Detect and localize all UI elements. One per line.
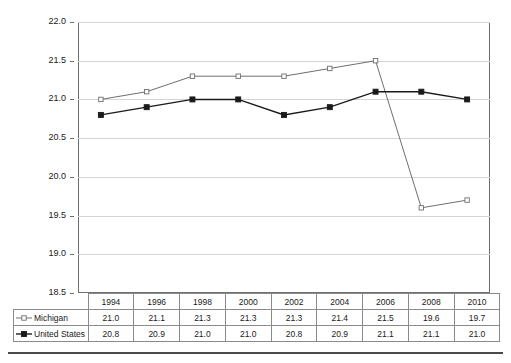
table-cell: 21.0 <box>180 326 226 342</box>
y-axis-tick-mark <box>70 216 74 217</box>
table-cell: 21.3 <box>225 310 271 326</box>
table-corner-cell <box>14 294 89 310</box>
table-cell: 21.1 <box>408 326 454 342</box>
column-header: 2002 <box>271 294 317 310</box>
column-header: 2008 <box>408 294 454 310</box>
legend-label: United States <box>34 329 88 339</box>
table-cell: 21.0 <box>225 326 271 342</box>
data-point-marker <box>419 206 423 210</box>
y-axis-tick-mark <box>70 177 74 178</box>
table-cell: 20.8 <box>88 326 134 342</box>
data-point-marker <box>144 89 148 93</box>
column-header: 2004 <box>317 294 363 310</box>
y-axis-tick-label: 20.5 <box>48 133 66 142</box>
table-cell: 20.9 <box>134 326 180 342</box>
data-point-marker <box>99 97 103 101</box>
y-axis-tick-label: 22.0 <box>48 17 66 26</box>
data-point-marker <box>465 97 470 102</box>
y-axis-tick-label: 19.5 <box>48 211 66 220</box>
plot-area <box>78 22 490 293</box>
column-header: 2000 <box>225 294 271 310</box>
data-table: 199419961998200020022004200620082010Mich… <box>13 293 500 342</box>
data-point-marker <box>144 105 149 110</box>
filled-square-marker-icon <box>16 329 32 339</box>
table-cell: 19.7 <box>454 310 500 326</box>
y-axis-tick-label: 21.0 <box>48 94 66 103</box>
table-cell: 21.1 <box>363 326 409 342</box>
table-row: Michigan21.021.121.321.321.321.421.519.6… <box>14 310 500 326</box>
data-point-marker <box>236 74 240 78</box>
column-header: 1998 <box>180 294 226 310</box>
y-axis-tick-label: 19.0 <box>48 249 66 258</box>
table-cell: 21.3 <box>271 310 317 326</box>
data-point-marker <box>328 66 332 70</box>
table-header-row: 199419961998200020022004200620082010 <box>14 294 500 310</box>
series-layer <box>78 22 490 293</box>
table-cell: 21.1 <box>134 310 180 326</box>
series-line <box>101 61 467 208</box>
y-axis-tick-mark <box>70 22 74 23</box>
series-michigan <box>99 59 470 211</box>
table-cell: 21.0 <box>88 310 134 326</box>
series-line <box>101 92 467 115</box>
column-header: 2010 <box>454 294 500 310</box>
y-axis-tick-mark <box>70 254 74 255</box>
table-cell: 20.9 <box>317 326 363 342</box>
y-axis: 22.021.521.020.520.019.519.018.5 <box>0 22 74 293</box>
data-point-marker <box>236 97 241 102</box>
table-cell: 21.5 <box>363 310 409 326</box>
data-point-marker <box>190 74 194 78</box>
column-header: 2006 <box>363 294 409 310</box>
data-point-marker <box>327 105 332 110</box>
data-point-marker <box>98 112 103 117</box>
legend-item-michigan: Michigan <box>14 310 89 326</box>
chart-figure: 22.021.521.020.520.019.519.018.5 1994199… <box>0 0 511 363</box>
legend-label: Michigan <box>34 313 88 323</box>
data-point-marker <box>282 112 287 117</box>
data-point-marker <box>419 89 424 94</box>
y-axis-tick-mark <box>70 138 74 139</box>
y-axis-tick-mark <box>70 61 74 62</box>
footer-rule <box>8 352 503 354</box>
table-cell: 19.6 <box>408 310 454 326</box>
data-point-marker <box>282 74 286 78</box>
open-square-marker-icon <box>16 313 32 323</box>
y-axis-tick-label: 20.0 <box>48 172 66 181</box>
column-header: 1994 <box>88 294 134 310</box>
data-point-marker <box>465 198 469 202</box>
data-point-marker <box>190 97 195 102</box>
table-cell: 21.3 <box>180 310 226 326</box>
legend-item-united-states: United States <box>14 326 89 342</box>
table-cell: 21.0 <box>454 326 500 342</box>
column-header: 1996 <box>134 294 180 310</box>
data-point-marker <box>373 59 377 63</box>
y-axis-tick-mark <box>70 99 74 100</box>
table-cell: 21.4 <box>317 310 363 326</box>
table-cell: 20.8 <box>271 326 317 342</box>
series-united-states <box>98 89 469 117</box>
table-row: United States20.820.921.021.020.820.921.… <box>14 326 500 342</box>
data-point-marker <box>373 89 378 94</box>
y-axis-tick-label: 21.5 <box>48 56 66 65</box>
